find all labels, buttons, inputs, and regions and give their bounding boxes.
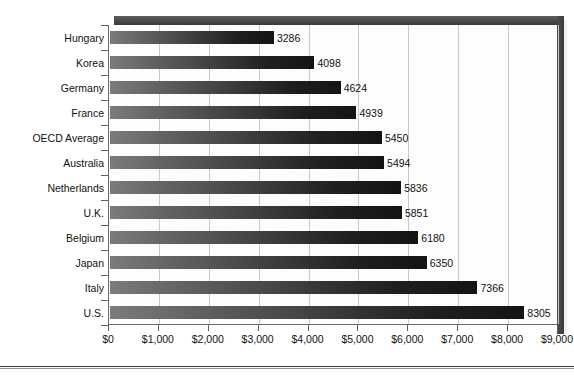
bar [110, 206, 402, 219]
category-tick [101, 175, 108, 176]
category-label: Germany [4, 83, 104, 94]
bar-row: 5450 [110, 125, 559, 150]
bar-value-label: 4939 [356, 107, 382, 118]
footer-rule [0, 366, 574, 367]
plot-box-ceiling [114, 16, 564, 25]
chart-figure: HungaryKoreaGermanyFranceOECD AverageAus… [0, 0, 574, 375]
category-label: France [4, 108, 104, 119]
bar-row: 8305 [110, 300, 559, 325]
category-tick [101, 150, 108, 151]
value-tick [557, 325, 558, 331]
value-tick-label: $7,000 [441, 334, 473, 345]
bar-value-label: 5450 [382, 132, 408, 143]
bar [110, 231, 418, 244]
bar-value-label: 5836 [401, 182, 427, 193]
category-axis: HungaryKoreaGermanyFranceOECD AverageAus… [0, 16, 104, 334]
value-tick [208, 325, 209, 331]
category-tick [101, 75, 108, 76]
footer-rule-secondary [0, 368, 574, 369]
category-label: Japan [4, 258, 104, 269]
bar [110, 156, 384, 169]
value-axis: $0$1,000$2,000$3,000$4,000$5,000$6,000$7… [108, 325, 564, 351]
value-tick-label: $3,000 [242, 334, 274, 345]
category-label: Korea [4, 58, 104, 69]
plot-box: 3286409846244939545054945836585161806350… [108, 16, 564, 334]
value-tick-label: $0 [102, 334, 114, 345]
bar [110, 306, 524, 319]
bar-value-label: 7366 [477, 282, 503, 293]
bar-value-label: 4624 [341, 82, 367, 93]
value-tick-label: $1,000 [142, 334, 174, 345]
value-tick-label: $9,000 [541, 334, 573, 345]
value-tick [507, 325, 508, 331]
category-label: Hungary [4, 33, 104, 44]
category-tick [101, 300, 108, 301]
value-tick-label: $2,000 [192, 334, 224, 345]
bar-value-label: 8305 [524, 307, 550, 318]
value-tick-label: $6,000 [391, 334, 423, 345]
bar [110, 106, 356, 119]
bar-row: 4939 [110, 100, 559, 125]
bar-value-label: 4098 [314, 57, 340, 68]
category-label: U.K. [4, 208, 104, 219]
category-label: Belgium [4, 233, 104, 244]
value-tick [258, 325, 259, 331]
bar-value-label: 5851 [402, 207, 428, 218]
category-label: Australia [4, 158, 104, 169]
category-label: U.S. [4, 308, 104, 319]
category-label: OECD Average [4, 133, 104, 144]
bar-value-label: 6350 [427, 257, 453, 268]
plot-area: 3286409846244939545054945836585161806350… [108, 25, 557, 325]
category-tick [101, 50, 108, 51]
value-tick [108, 325, 109, 331]
value-tick-label: $8,000 [491, 334, 523, 345]
category-tick [101, 100, 108, 101]
bar-row: 7366 [110, 275, 559, 300]
bar-row: 3286 [110, 25, 559, 50]
value-tick [407, 325, 408, 331]
bar [110, 281, 477, 294]
bar [110, 81, 341, 94]
category-tick [101, 325, 108, 326]
bar-value-label: 5494 [384, 157, 410, 168]
bar-row: 4624 [110, 75, 559, 100]
bar-row: 6350 [110, 250, 559, 275]
value-tick [308, 325, 309, 331]
category-tick [101, 225, 108, 226]
plot-box-edge-highlight [564, 20, 567, 334]
category-tick [101, 250, 108, 251]
bar [110, 131, 382, 144]
bar-row: 4098 [110, 50, 559, 75]
value-tick-label: $5,000 [341, 334, 373, 345]
category-tick [101, 125, 108, 126]
bar-row: 5836 [110, 175, 559, 200]
bar [110, 56, 314, 69]
bar [110, 256, 427, 269]
bar-row: 6180 [110, 225, 559, 250]
chart-title-sliver [0, 0, 574, 8]
value-tick-label: $4,000 [291, 334, 323, 345]
value-tick [357, 325, 358, 331]
category-label: Italy [4, 283, 104, 294]
bar-row: 5851 [110, 200, 559, 225]
bar-row: 5494 [110, 150, 559, 175]
category-label: Netherlands [4, 183, 104, 194]
value-tick [457, 325, 458, 331]
bar [110, 181, 401, 194]
category-tick [101, 25, 108, 26]
category-tick [101, 200, 108, 201]
bar-value-label: 3286 [274, 32, 300, 43]
bar [110, 31, 274, 44]
category-tick [101, 275, 108, 276]
value-tick [158, 325, 159, 331]
bar-value-label: 6180 [418, 232, 444, 243]
